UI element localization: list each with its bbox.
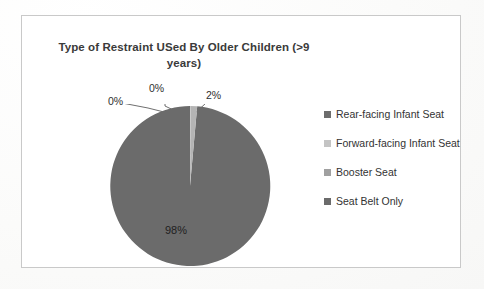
legend-swatch-icon	[324, 140, 331, 147]
chart-title-line-2: years)	[167, 57, 202, 69]
legend-item-forward-facing-infant-seat[interactable]: Forward-facing Infant Seat	[324, 137, 474, 150]
chart-title: Type of Restraint USed By Older Children…	[58, 40, 310, 71]
chart-frame: Type of Restraint USed By Older Children…	[21, 15, 461, 268]
legend-item-label: Forward-facing Infant Seat	[336, 137, 460, 150]
legend-swatch-icon	[324, 198, 331, 205]
legend-item-label: Seat Belt Only	[336, 195, 403, 208]
legend-item-label: Booster Seat	[336, 166, 397, 179]
legend-item-booster-seat[interactable]: Booster Seat	[324, 166, 474, 179]
legend-item-label: Rear-facing Infant Seat	[336, 108, 444, 121]
chart-screenshot: Type of Restraint USed By Older Children…	[0, 0, 484, 289]
data-label-seat-belt-only: 98%	[165, 224, 187, 236]
legend-item-seat-belt-only[interactable]: Seat Belt Only	[324, 195, 474, 208]
legend-swatch-icon	[324, 111, 331, 118]
chart-legend: Rear-facing Infant Seat Forward-facing I…	[324, 108, 474, 224]
pie-svg	[102, 104, 282, 270]
pie-graphic	[102, 104, 282, 270]
data-label-forward-facing-infant-seat: 0%	[149, 82, 164, 94]
chart-title-line-1: Type of Restraint USed By Older Children…	[58, 41, 309, 53]
data-label-rear-facing-infant-seat: 0%	[108, 95, 123, 107]
legend-item-rear-facing-infant-seat[interactable]: Rear-facing Infant Seat	[324, 108, 474, 121]
data-label-booster-seat: 2%	[206, 89, 221, 101]
pie-slices	[110, 106, 270, 266]
legend-swatch-icon	[324, 169, 331, 176]
